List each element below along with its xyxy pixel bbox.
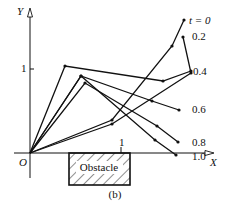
origin-label: O	[19, 156, 27, 168]
figure-caption: (b)	[109, 188, 122, 201]
obstacle-label: Obstacle	[80, 161, 119, 173]
joint-dot	[170, 44, 173, 47]
time-label-1: 0.2	[192, 30, 206, 42]
y-arrow-icon	[28, 8, 33, 17]
x-axis-label: X	[209, 156, 218, 168]
joint-dot	[177, 108, 180, 111]
joint-dot	[79, 74, 82, 77]
joint-dot	[110, 118, 113, 121]
joint-dot	[174, 153, 177, 156]
time-label-2: 0.4	[193, 65, 207, 77]
joint-dot	[155, 124, 158, 127]
joint-dot	[181, 35, 184, 38]
arm-config-0	[30, 20, 184, 153]
joint-dot	[153, 138, 156, 141]
joint-dot	[110, 122, 113, 125]
joint-dot	[63, 64, 66, 67]
time-label-5: 1.0	[192, 150, 206, 162]
arm-config-2	[30, 66, 191, 153]
x-arrow-icon	[205, 151, 214, 156]
joint-dot	[176, 140, 179, 143]
x-tick-label: 1	[119, 136, 125, 148]
arm-config-1	[30, 37, 191, 153]
joint-dot	[182, 18, 185, 21]
y-axis-label: Y	[17, 5, 25, 17]
time-label-4: 0.8	[192, 136, 206, 148]
axes	[14, 8, 214, 178]
arm-configurations	[30, 18, 193, 156]
arm-config-4	[30, 83, 178, 153]
diagram-canvas: Obstacle Y X O 1 1 t = 0 0.2 0.4 0.6 0.8…	[0, 0, 230, 211]
y-tick-label: 1	[21, 62, 27, 74]
time-label-0: t = 0	[189, 14, 211, 26]
arm-config-5	[30, 76, 176, 155]
joint-dot	[150, 99, 153, 102]
joint-dot	[161, 79, 164, 82]
joint-dot	[83, 81, 86, 84]
obstacle: Obstacle	[69, 153, 130, 185]
time-label-3: 0.6	[192, 103, 206, 115]
